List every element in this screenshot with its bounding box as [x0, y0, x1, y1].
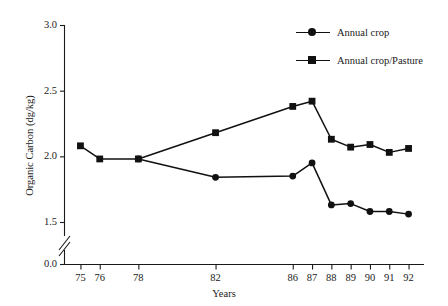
- data-point-square: [309, 98, 316, 105]
- data-point-circle: [309, 160, 316, 167]
- x-tick-label: 78: [123, 273, 153, 284]
- data-point-square: [135, 156, 142, 163]
- data-point-circle: [347, 200, 354, 207]
- data-point-square: [405, 145, 412, 152]
- legend-marker-circle-icon: [296, 26, 330, 38]
- data-point-square: [212, 129, 219, 136]
- data-point-square: [386, 149, 393, 156]
- data-point-circle: [328, 202, 335, 209]
- y-tick-label: 3.0: [17, 20, 57, 31]
- data-point-square: [96, 156, 103, 163]
- x-tick-label: 92: [394, 273, 424, 284]
- legend-item-annual-crop[interactable]: Annual crop: [296, 26, 389, 38]
- chart-plot-area: [0, 0, 448, 306]
- data-point-circle: [212, 174, 219, 181]
- x-tick-label: 76: [85, 273, 115, 284]
- legend-label: Annual crop/Pasture: [337, 55, 423, 66]
- data-point-circle: [289, 173, 296, 180]
- data-point-square: [289, 103, 296, 110]
- y-tick-label: 2.5: [17, 86, 57, 97]
- chart-figure: Organic Carbon (dg/kg) Years 0.01.52.02.…: [0, 0, 448, 306]
- chart-series-group: [77, 98, 412, 218]
- data-point-square: [328, 136, 335, 143]
- x-axis-ticks: [81, 265, 409, 270]
- data-point-circle: [386, 208, 393, 215]
- data-point-circle: [405, 211, 412, 218]
- series-line: [80, 101, 408, 159]
- data-point-circle: [367, 208, 374, 215]
- data-point-square: [347, 144, 354, 151]
- x-tick-label: 82: [201, 273, 231, 284]
- x-axis-title: Years: [0, 288, 448, 299]
- y-axis-break-mark-lower: [59, 236, 70, 250]
- legend-label: Annual crop: [337, 27, 389, 38]
- data-point-square: [77, 142, 84, 149]
- y-tick-label: 1.5: [17, 217, 57, 228]
- legend-item-annual-crop-pasture[interactable]: Annual crop/Pasture: [296, 54, 423, 66]
- series-line: [138, 159, 408, 214]
- data-point-square: [367, 141, 374, 148]
- y-tick-label: 2.0: [17, 151, 57, 162]
- legend-marker-square-icon: [296, 54, 330, 66]
- y-tick-label: 0.0: [17, 259, 57, 270]
